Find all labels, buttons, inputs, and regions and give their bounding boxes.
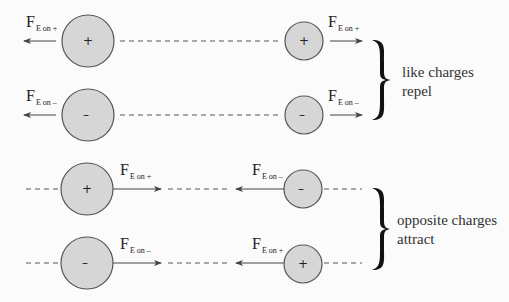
row-like-negative	[24, 89, 362, 141]
charge-sign: –	[298, 181, 304, 197]
row-opposite-1	[26, 163, 362, 215]
force-label: FE on +	[26, 14, 57, 33]
force-label: FE on –	[120, 236, 151, 255]
row-like-positive	[24, 15, 362, 67]
force-label: FE on +	[328, 14, 359, 33]
charge-sign: +	[298, 256, 308, 272]
brace-opposite-charges	[372, 188, 392, 270]
charge-sign: +	[83, 33, 93, 49]
charge-sign: +	[299, 33, 309, 49]
note-opposite-charges: opposite charges attract	[397, 211, 497, 249]
note-line: attract	[397, 230, 497, 249]
note-like-charges: like charges repel	[402, 63, 474, 101]
force-label: FE on –	[328, 88, 359, 107]
note-line: opposite charges	[397, 211, 497, 230]
brace-like-charges	[372, 40, 393, 120]
charge-sign: –	[83, 107, 89, 123]
force-label: FE on +	[120, 162, 151, 181]
note-line: like charges	[402, 63, 474, 82]
force-label: FE on –	[252, 162, 283, 181]
force-label: FE on –	[26, 88, 57, 107]
charge-sign: +	[82, 181, 92, 197]
charges-diagram	[0, 0, 509, 302]
charge-sign: –	[299, 107, 305, 123]
force-label: FE on +	[252, 236, 283, 255]
note-line: repel	[402, 82, 474, 101]
row-opposite-2	[26, 237, 362, 289]
charge-sign: –	[82, 255, 88, 271]
